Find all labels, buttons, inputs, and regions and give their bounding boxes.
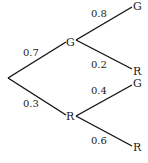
prob-R-G: 0.4	[91, 85, 107, 96]
prob-G-R: 0.2	[91, 59, 107, 70]
node-R-G: G	[133, 77, 142, 90]
node-level1-G: G	[66, 36, 75, 49]
prob-G-G: 0.8	[91, 8, 107, 19]
node-G-G: G	[133, 0, 142, 13]
branch-root-to-R	[8, 78, 66, 115]
node-R-R: R	[133, 141, 142, 154]
prob-root-R: 0.3	[23, 98, 39, 109]
probability-tree-diagram: G R G R G R 0.7 0.3 0.8 0.2 0.4 0.6	[0, 0, 148, 163]
prob-root-G: 0.7	[23, 47, 39, 58]
node-level1-R: R	[66, 110, 75, 123]
prob-R-R: 0.6	[91, 135, 107, 146]
